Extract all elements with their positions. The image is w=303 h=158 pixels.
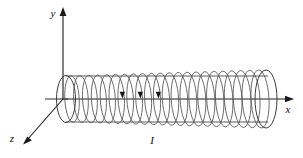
solenoid-figure: y x z I xyxy=(0,0,303,158)
y-axis-label: y xyxy=(50,7,56,19)
z-axis-label: z xyxy=(9,132,15,144)
solenoid-diagram-canvas: y x z I xyxy=(0,0,303,158)
x-axis-label: x xyxy=(285,103,291,115)
